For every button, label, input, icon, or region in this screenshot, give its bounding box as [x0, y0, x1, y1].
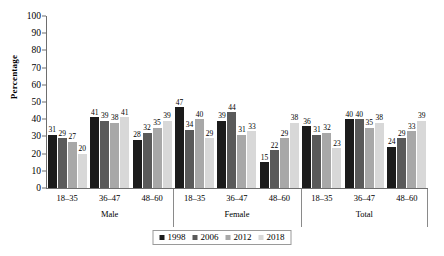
category-tick-row: 18–3536–4748–60: [46, 189, 173, 206]
bar[interactable]: [227, 112, 236, 188]
bar[interactable]: [68, 142, 77, 188]
bar-column[interactable]: 40: [355, 16, 364, 188]
bar-column[interactable]: 31: [312, 16, 321, 188]
bar-column[interactable]: 35: [365, 16, 374, 188]
bar-column[interactable]: 34: [185, 16, 194, 188]
bar-column[interactable]: 39: [163, 16, 172, 188]
bar-cluster: 28323539: [131, 16, 173, 188]
bar-value-label: 32: [323, 124, 331, 132]
bar-column[interactable]: 39: [417, 16, 426, 188]
bar[interactable]: [387, 147, 396, 188]
bar[interactable]: [247, 131, 256, 188]
bar[interactable]: [195, 119, 204, 188]
bar-column[interactable]: 32: [322, 16, 331, 188]
bar-column[interactable]: 38: [290, 16, 299, 188]
bar[interactable]: [407, 131, 416, 188]
bar-cluster: 15222938: [258, 16, 300, 188]
legend-item[interactable]: 2012: [226, 232, 252, 242]
y-axis-tick-label: 90: [0, 28, 46, 38]
legend-swatch-icon: [160, 235, 165, 240]
bar-column[interactable]: 24: [387, 16, 396, 188]
bar-supergroup: 363132234040353824293339: [301, 16, 428, 188]
bar-column[interactable]: 31: [237, 16, 246, 188]
legend-item[interactable]: 2006: [193, 232, 219, 242]
bar-column[interactable]: 41: [120, 16, 129, 188]
bar-column[interactable]: 44: [227, 16, 236, 188]
bar-column[interactable]: 20: [78, 16, 87, 188]
bar[interactable]: [417, 121, 426, 188]
bar-column[interactable]: 15: [260, 16, 269, 188]
bar-column[interactable]: 32: [143, 16, 152, 188]
bar-value-label: 41: [91, 109, 99, 117]
bar[interactable]: [397, 138, 406, 188]
bar[interactable]: [217, 121, 226, 188]
bar-column[interactable]: 29: [58, 16, 67, 188]
bar-column[interactable]: 33: [247, 16, 256, 188]
bar[interactable]: [355, 119, 364, 188]
bar-value-label: 39: [418, 112, 426, 120]
bar[interactable]: [237, 135, 246, 188]
bar-column[interactable]: 29: [397, 16, 406, 188]
bar[interactable]: [110, 123, 119, 188]
bar-column[interactable]: 40: [345, 16, 354, 188]
legend-label: 2012: [234, 232, 252, 242]
bar-column[interactable]: 29: [205, 16, 214, 188]
legend-item[interactable]: 2018: [259, 232, 285, 242]
bar-column[interactable]: 33: [407, 16, 416, 188]
bar[interactable]: [100, 121, 109, 188]
legend-item[interactable]: 1998: [160, 232, 186, 242]
bar-cluster: 31292720: [46, 16, 88, 188]
bar-column[interactable]: 41: [90, 16, 99, 188]
bar[interactable]: [175, 107, 184, 188]
bar[interactable]: [260, 162, 269, 188]
bar[interactable]: [120, 117, 129, 188]
category-tick-label: 48–60: [258, 189, 300, 206]
bar-column[interactable]: 39: [100, 16, 109, 188]
bar[interactable]: [365, 128, 374, 188]
bar-column[interactable]: 29: [280, 16, 289, 188]
bar[interactable]: [133, 140, 142, 188]
bar-column[interactable]: 36: [302, 16, 311, 188]
bar-value-label: 34: [186, 121, 194, 129]
bar[interactable]: [270, 150, 279, 188]
bar-column[interactable]: 28: [133, 16, 142, 188]
bar[interactable]: [143, 133, 152, 188]
bar[interactable]: [58, 138, 67, 188]
bar-column[interactable]: 40: [195, 16, 204, 188]
bar-column[interactable]: 22: [270, 16, 279, 188]
bar-column[interactable]: 38: [375, 16, 384, 188]
bar-column[interactable]: 39: [217, 16, 226, 188]
bar[interactable]: [322, 133, 331, 188]
grouped-bar-chart: Percentage 1009080706050403020100 312927…: [0, 0, 444, 256]
bar[interactable]: [345, 119, 354, 188]
bar[interactable]: [205, 138, 214, 188]
y-axis-tick-label: 10: [0, 166, 46, 176]
bar[interactable]: [185, 130, 194, 188]
bar-column[interactable]: 27: [68, 16, 77, 188]
bar[interactable]: [153, 128, 162, 188]
bar[interactable]: [90, 117, 99, 188]
bar-value-label: 24: [388, 138, 396, 146]
bar[interactable]: [375, 123, 384, 188]
bar[interactable]: [280, 138, 289, 188]
legend-swatch-icon: [193, 235, 198, 240]
bar-column[interactable]: 31: [48, 16, 57, 188]
bar-column[interactable]: 38: [110, 16, 119, 188]
bar[interactable]: [302, 126, 311, 188]
bar[interactable]: [332, 148, 341, 188]
group-divider: [301, 189, 302, 227]
bar-column[interactable]: 23: [332, 16, 341, 188]
category-tick-label: 36–47: [216, 189, 258, 206]
bar-column[interactable]: 35: [153, 16, 162, 188]
bar[interactable]: [290, 123, 299, 188]
bar[interactable]: [312, 135, 321, 188]
bar-supergroup: 473440293944313315222938: [173, 16, 300, 188]
y-axis-tick-label: 100: [0, 11, 46, 21]
bar[interactable]: [163, 121, 172, 188]
bar-column[interactable]: 47: [175, 16, 184, 188]
legend-label: 1998: [168, 232, 186, 242]
category-supergroup: 18–3536–4748–60Total: [301, 189, 428, 227]
bar[interactable]: [48, 135, 57, 188]
bar-cluster: 40403538: [343, 16, 385, 188]
bar[interactable]: [78, 154, 87, 188]
